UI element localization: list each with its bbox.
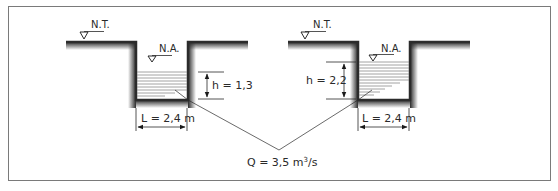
right-ground-level-icon bbox=[301, 32, 326, 40]
right-water-hatching bbox=[359, 62, 409, 95]
right-water-level-label: N.A. bbox=[381, 44, 402, 54]
diagram-frame bbox=[9, 7, 551, 181]
left-water-level-icon bbox=[148, 56, 172, 63]
right-water-level-icon bbox=[369, 55, 394, 62]
left-width-label: L = 2,4 m bbox=[141, 113, 195, 124]
left-depth-label: h = 1,3 bbox=[212, 80, 253, 91]
left-ground-level-icon bbox=[80, 32, 104, 40]
left-water-level-label: N.A. bbox=[159, 44, 180, 54]
left-water-hatching bbox=[137, 72, 187, 96]
left-ground-level-label: N.T. bbox=[91, 20, 110, 30]
right-depth-label: h = 2,2 bbox=[306, 75, 347, 86]
discharge-label: Q = 3,5 m3/s bbox=[247, 157, 317, 168]
right-ground-level-label: N.T. bbox=[313, 20, 332, 30]
right-width-label: L = 2,4 m bbox=[362, 113, 416, 124]
